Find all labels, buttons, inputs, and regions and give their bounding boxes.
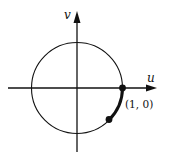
diagram-svg: v u (1, 0) — [0, 0, 171, 165]
arc-endpoint — [106, 116, 113, 123]
point-1-0 — [119, 85, 126, 92]
highlighted-arc — [109, 88, 123, 120]
u-axis-arrow-icon — [146, 85, 157, 92]
point-label: (1, 0) — [125, 98, 153, 110]
unit-circle-diagram: v u (1, 0) — [0, 0, 171, 165]
u-axis-label: u — [147, 71, 155, 85]
v-axis-arrow-icon — [74, 11, 81, 23]
v-axis-label: v — [64, 8, 71, 22]
